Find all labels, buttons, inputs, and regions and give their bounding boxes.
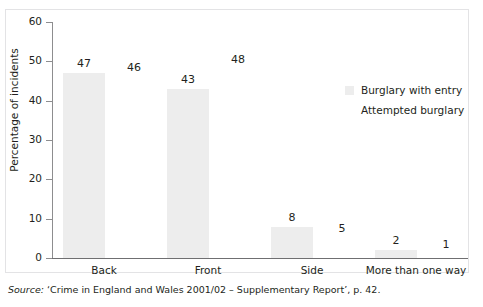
y-tick: 0: [46, 258, 52, 259]
y-tick-label: 60: [29, 15, 42, 28]
bar: [63, 73, 105, 258]
bar-value-label: 1: [425, 238, 467, 251]
plot-area: [52, 22, 468, 258]
x-category-label: Back: [52, 264, 156, 277]
legend-item-attempted-burglary[interactable]: Attempted burglary: [345, 100, 464, 120]
legend-swatch-burglary-with-entry: [345, 86, 354, 95]
source-note: Source: ‘Crime in England and Wales 2001…: [8, 284, 380, 295]
legend-item-burglary-with-entry[interactable]: Burglary with entry: [345, 80, 464, 100]
x-category-label: More than one way: [364, 264, 468, 277]
x-axis-line: [52, 258, 468, 259]
bar: [271, 227, 313, 258]
bar-value-label: 46: [113, 61, 155, 74]
bar-value-label: 5: [321, 222, 363, 235]
bar-value-label: 2: [375, 234, 417, 247]
bar-value-label: 43: [167, 73, 209, 86]
x-category-label: Side: [260, 264, 364, 277]
bar: [167, 89, 209, 258]
y-tick-mark: [46, 258, 52, 259]
bar-value-label: 47: [63, 57, 105, 70]
legend-swatch-attempted-burglary: [345, 106, 354, 115]
y-tick-label: 30: [29, 133, 42, 146]
source-prefix: Source:: [8, 284, 44, 295]
x-category-label: Front: [156, 264, 260, 277]
y-tick-label: 10: [29, 212, 42, 225]
bar-value-label: 8: [271, 211, 313, 224]
y-tick-label: 50: [29, 54, 42, 67]
bar-value-label: 48: [217, 53, 259, 66]
y-tick-label: 20: [29, 172, 42, 185]
source-text: ‘Crime in England and Wales 2001/02 – Su…: [44, 284, 380, 295]
y-axis-title: Percentage of incidents: [8, 30, 20, 190]
y-tick-label: 40: [29, 94, 42, 107]
legend-label-burglary-with-entry: Burglary with entry: [361, 84, 462, 96]
bar: [375, 250, 417, 258]
figure-container: Percentage of incidents 0102030405060 47…: [0, 0, 483, 307]
y-tick-label: 0: [35, 251, 42, 264]
chart-legend: Burglary with entry Attempted burglary: [345, 80, 464, 120]
legend-label-attempted-burglary: Attempted burglary: [361, 104, 464, 116]
